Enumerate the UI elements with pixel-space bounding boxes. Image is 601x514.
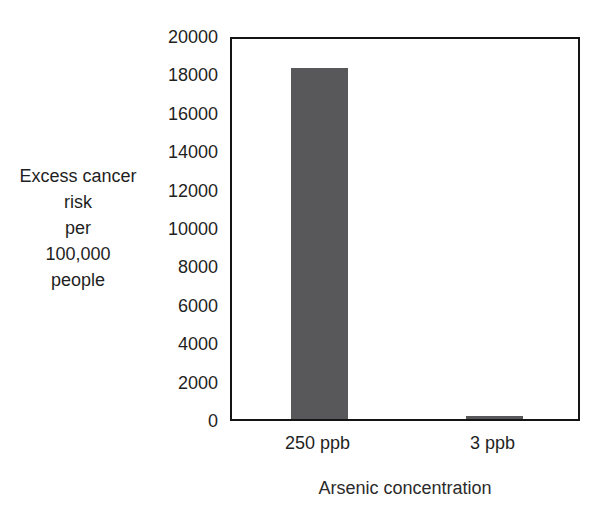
x-axis-tick-labels: 250 ppb3 ppb — [230, 432, 580, 458]
y-axis-tick-label: 8000 — [140, 258, 218, 276]
y-axis-tick-label: 16000 — [140, 105, 218, 123]
plot-inner — [232, 39, 578, 419]
bar-250-ppb — [291, 68, 349, 419]
y-axis-tick-label: 10000 — [140, 220, 218, 238]
plot-area — [230, 37, 580, 421]
x-axis-tick-label: 3 ppb — [470, 432, 515, 454]
x-axis-tick-label: 250 ppb — [285, 432, 350, 454]
y-axis-tick-label: 2000 — [140, 374, 218, 392]
y-axis-tick-label: 18000 — [140, 66, 218, 84]
x-axis-title: Arsenic concentration — [230, 477, 580, 499]
y-axis-tick-labels: 2000018000160001400012000100008000600040… — [140, 37, 218, 421]
y-axis-tick-label: 0 — [140, 412, 218, 430]
y-axis-tick-label: 14000 — [140, 143, 218, 161]
bar-3-ppb — [466, 416, 524, 419]
y-axis-tick-label: 12000 — [140, 182, 218, 200]
y-axis-title: Excess cancer risk per 100,000 people — [12, 163, 144, 293]
y-axis-tick-label: 4000 — [140, 335, 218, 353]
y-axis-tick-label: 20000 — [140, 28, 218, 46]
y-axis-tick-label: 6000 — [140, 297, 218, 315]
bar-chart-figure: Excess cancer risk per 100,000 people 20… — [0, 0, 601, 514]
